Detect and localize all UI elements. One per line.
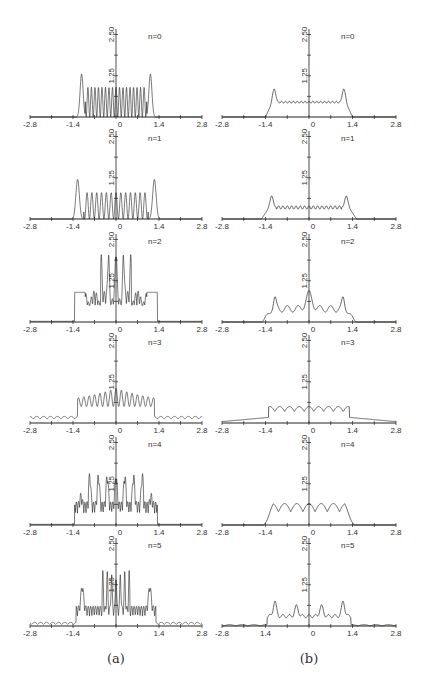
x-tick-label: -2.8: [215, 120, 229, 129]
x-tick-label: -2.8: [215, 629, 229, 638]
y-tick-label: 1.25: [300, 169, 309, 185]
panel-label: n=5: [148, 541, 162, 550]
x-tick-label: 0: [311, 222, 316, 231]
x-tick-label: -1.4: [66, 629, 80, 638]
panel-label: n=0: [341, 32, 355, 41]
panel-label: n=0: [148, 32, 162, 41]
x-tick-label: 2.8: [390, 325, 402, 334]
panel-a-n3: -2.8-1.401.42.81.252.50n=3: [23, 332, 208, 435]
x-tick-label: 1.4: [153, 325, 165, 334]
x-tick-label: 0: [311, 325, 316, 334]
x-tick-label: 0: [311, 120, 316, 129]
figure-canvas: -2.8-1.401.42.81.252.50n=0-2.8-1.401.42.…: [0, 0, 424, 677]
x-tick-label: 1.4: [153, 426, 165, 435]
y-tick-label: 2.50: [107, 434, 116, 450]
x-tick-label: -2.8: [23, 120, 37, 129]
x-tick-label: -2.8: [23, 629, 37, 638]
x-tick-label: 2.8: [196, 629, 208, 638]
y-tick-label: 2.50: [107, 128, 116, 144]
panel-b-n3: -2.8-1.401.42.81.252.50n=3: [215, 332, 402, 435]
x-tick-label: 1.4: [347, 325, 359, 334]
x-tick-label: -2.8: [215, 426, 229, 435]
x-tick-label: 0: [311, 426, 316, 435]
x-tick-label: 1.4: [153, 629, 165, 638]
panel-label: n=1: [341, 134, 355, 143]
y-tick-label: 2.50: [300, 231, 309, 247]
x-tick-label: 0: [118, 222, 123, 231]
x-tick-label: 1.4: [347, 120, 359, 129]
y-tick-label: 1.25: [300, 373, 309, 389]
column-caption: (a): [107, 651, 125, 666]
y-tick-label: 2.50: [107, 535, 116, 551]
x-tick-label: 2.8: [390, 426, 402, 435]
y-tick-label: 2.50: [300, 128, 309, 144]
x-tick-label: 1.4: [347, 222, 359, 231]
panel-b-n0: -2.8-1.401.42.81.252.50n=0: [215, 26, 402, 129]
panel-a-n0: -2.8-1.401.42.81.252.50n=0: [23, 26, 208, 129]
x-tick-label: -1.4: [66, 325, 80, 334]
panel-a-n1: -2.8-1.401.42.81.252.50n=1: [23, 128, 208, 231]
x-tick-label: 2.8: [196, 222, 208, 231]
x-tick-label: 0: [118, 426, 123, 435]
y-tick-label: 2.50: [107, 332, 116, 348]
x-tick-label: 2.8: [196, 120, 208, 129]
x-tick-label: -2.8: [23, 222, 37, 231]
y-tick-label: 2.50: [300, 434, 309, 450]
x-tick-label: 2.8: [196, 426, 208, 435]
column-caption: (b): [300, 651, 318, 666]
panel-a-n2: -2.8-1.401.42.81.252.50n=2: [23, 231, 208, 334]
y-tick-label: 1.25: [107, 373, 116, 389]
x-tick-label: -2.8: [23, 325, 37, 334]
x-tick-label: 1.4: [153, 120, 165, 129]
x-tick-label: -1.4: [259, 426, 273, 435]
x-tick-label: -2.8: [215, 222, 229, 231]
panel-a-n5: -2.8-1.401.42.81.252.50n=5: [23, 535, 208, 638]
panel-label: n=4: [341, 440, 355, 449]
x-tick-label: 0: [118, 120, 123, 129]
x-tick-label: 2.8: [390, 120, 402, 129]
x-tick-label: -1.4: [259, 120, 273, 129]
x-tick-label: -1.4: [66, 426, 80, 435]
panel-b-n1: -2.8-1.401.42.81.252.50n=1: [215, 128, 402, 231]
panel-b-n5: -2.81.401.42.81.252.50n=5: [215, 535, 402, 638]
y-tick-label: 1.25: [107, 169, 116, 185]
x-tick-label: -2.8: [23, 426, 37, 435]
y-tick-label: 1.25: [300, 475, 309, 491]
x-tick-label: -2.8: [215, 528, 229, 537]
panel-label: n=1: [148, 134, 162, 143]
x-tick-label: 1.4: [347, 426, 359, 435]
x-tick-label: 2.8: [390, 222, 402, 231]
y-tick-label: 1.25: [300, 576, 309, 592]
x-tick-label: -2.8: [215, 325, 229, 334]
panel-label: n=3: [148, 338, 162, 347]
y-tick-label: 2.50: [300, 535, 309, 551]
x-tick-label: -2.8: [23, 528, 37, 537]
y-tick-label: 2.50: [300, 332, 309, 348]
x-tick-label: -1.4: [66, 222, 80, 231]
x-tick-label: -1.4: [259, 528, 273, 537]
panel-label: n=3: [341, 338, 355, 347]
panel-label: n=4: [148, 440, 162, 449]
y-tick-label: 2.50: [300, 26, 309, 42]
y-tick-label: 1.25: [300, 272, 309, 288]
panel-label: n=2: [148, 237, 162, 246]
x-tick-label: 0: [118, 528, 123, 537]
x-tick-label: 0: [118, 325, 123, 334]
x-tick-label: -1.4: [259, 325, 273, 334]
y-tick-label: 1.25: [300, 67, 309, 83]
x-tick-label: 2.8: [196, 528, 208, 537]
x-tick-label: 2.8: [390, 629, 402, 638]
x-tick-label: 1.4: [153, 222, 165, 231]
x-tick-label: 1.4: [347, 629, 359, 638]
panel-label: n=5: [341, 541, 355, 550]
x-tick-label: 0: [118, 629, 123, 638]
panel-a-n4: -2.8-1.401.42.81.252.50n=4: [23, 434, 208, 537]
y-tick-label: 2.50: [107, 231, 116, 247]
x-tick-label: 1.4: [153, 528, 165, 537]
x-tick-label: -1.4: [259, 222, 273, 231]
x-tick-label: -1.4: [66, 120, 80, 129]
panel-b-n4: -2.8-1.401.42.81.252.50n=4: [215, 434, 402, 537]
panel-b-n2: -2.8-1.401.42.81.252.50n=2: [215, 231, 402, 334]
y-tick-label: 2.50: [107, 26, 116, 42]
x-tick-label: 1.4: [347, 528, 359, 537]
